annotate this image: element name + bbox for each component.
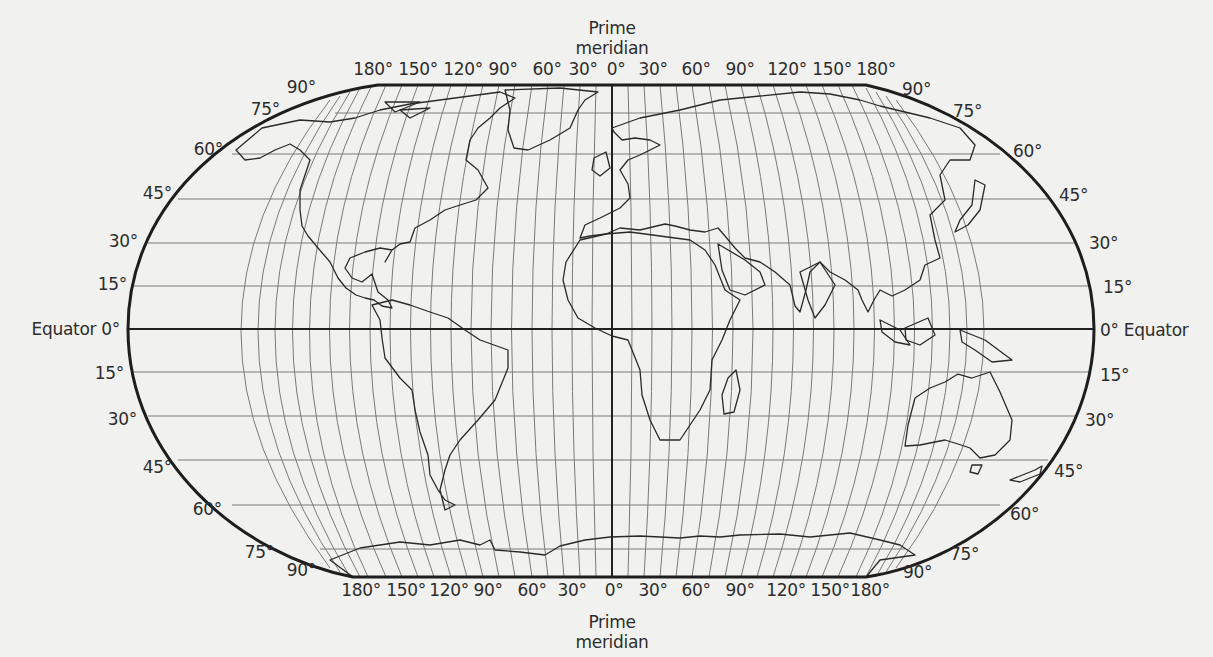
- lat-label-left: 30°: [109, 232, 138, 250]
- lat-label-right: 30°: [1085, 411, 1114, 429]
- prime-meridian-label-bottom: Prime meridian: [575, 612, 648, 652]
- lat-label-right: 30°: [1089, 234, 1118, 252]
- lon-label-top: 180°: [856, 60, 896, 78]
- south-america: [372, 300, 508, 510]
- lat-label-left: 60°: [193, 500, 222, 518]
- meridian-word: meridian: [575, 632, 648, 652]
- continent-outlines: [236, 88, 1042, 577]
- antarctica: [330, 533, 915, 577]
- lon-label-top: 60°: [532, 60, 561, 78]
- lon-label-top: 0°: [607, 60, 626, 78]
- lon-label-bottom: 0°: [605, 581, 624, 599]
- world-map: [0, 0, 1213, 657]
- lon-label-top: 30°: [638, 60, 667, 78]
- lat-label-right: 45°: [1059, 186, 1088, 204]
- lon-label-bottom: 150°: [386, 581, 426, 599]
- lat-label-left: 75°: [251, 100, 280, 118]
- lon-label-top: 120°: [767, 60, 807, 78]
- lat-label-right: 60°: [1013, 142, 1042, 160]
- lon-label-bottom: 90°: [725, 581, 754, 599]
- lon-label-bottom: 120°: [766, 581, 806, 599]
- lat-label-left: 75°: [245, 543, 274, 561]
- meridian-word: meridian: [575, 38, 648, 58]
- lon-label-top: 60°: [681, 60, 710, 78]
- prime-meridian-label-top: Prime meridian: [575, 18, 648, 58]
- prime-word: Prime: [575, 612, 648, 632]
- lon-label-bottom: 30°: [557, 581, 586, 599]
- lat-label-left: 90°: [287, 78, 316, 96]
- greenland: [505, 88, 598, 150]
- lon-label-top: 30°: [568, 60, 597, 78]
- lon-label-top: 90°: [725, 60, 754, 78]
- lat-label-left: 45°: [143, 184, 172, 202]
- equator-label-right: 0° Equator: [1100, 321, 1189, 339]
- equator-label-left: Equator 0°: [32, 320, 121, 338]
- lon-label-bottom: 60°: [517, 581, 546, 599]
- lon-label-bottom: 150°: [810, 581, 850, 599]
- australia: [905, 372, 1012, 458]
- lat-label-left: 15°: [98, 275, 127, 293]
- lat-label-right: 60°: [1010, 505, 1039, 523]
- lon-label-top: 90°: [488, 60, 517, 78]
- lon-label-top: 180°: [353, 60, 393, 78]
- lon-label-top: 120°: [443, 60, 483, 78]
- prime-word: Prime: [575, 18, 648, 38]
- lat-label-right: 15°: [1100, 366, 1129, 384]
- lat-label-left: 90°: [287, 561, 316, 579]
- lat-label-right: 75°: [950, 545, 979, 563]
- lat-label-right: 90°: [902, 80, 931, 98]
- lon-label-top: 150°: [812, 60, 852, 78]
- lat-label-left: 15°: [95, 364, 124, 382]
- lat-label-left: 45°: [143, 458, 172, 476]
- lon-label-bottom: 90°: [473, 581, 502, 599]
- lon-label-top: 150°: [398, 60, 438, 78]
- lat-label-right: 90°: [903, 563, 932, 581]
- lon-label-bottom: 180°: [850, 581, 890, 599]
- lat-label-right: 75°: [953, 102, 982, 120]
- lon-label-bottom: 120°: [429, 581, 469, 599]
- lon-label-bottom: 30°: [638, 581, 667, 599]
- lon-label-bottom: 180°: [341, 581, 381, 599]
- lon-label-bottom: 60°: [681, 581, 710, 599]
- lat-label-right: 45°: [1054, 462, 1083, 480]
- lat-label-left: 30°: [108, 410, 137, 428]
- lat-label-right: 15°: [1103, 278, 1132, 296]
- lat-label-left: 60°: [194, 140, 223, 158]
- eurasia: [580, 92, 975, 312]
